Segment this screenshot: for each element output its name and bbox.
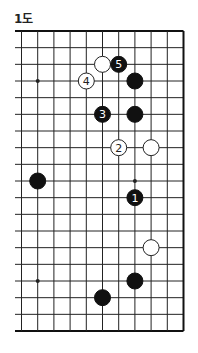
white-stone [143,240,159,256]
stone-circle [127,106,143,122]
black-stone [127,73,143,89]
black-stone: 3 [95,106,111,122]
black-stone: 5 [111,56,127,72]
stone-circle [127,73,143,89]
stone-circle [143,140,159,156]
go-board: 54321 [0,0,198,353]
black-stone: 1 [127,190,143,206]
stone-circle [30,173,46,189]
move-number-label: 2 [115,142,122,155]
stone-circle [143,240,159,256]
white-stone: 2 [111,140,127,156]
stone-circle [127,273,143,289]
black-stone [95,290,111,306]
stone-circle [95,290,111,306]
move-number-label: 3 [99,108,106,121]
white-stone: 4 [78,73,94,89]
move-number-label: 1 [131,192,138,205]
black-stone [127,273,143,289]
white-stone [95,56,111,72]
move-number-label: 4 [83,75,90,88]
move-number-label: 5 [115,58,122,71]
star-point [133,179,137,183]
white-stone [143,140,159,156]
star-point [36,279,40,283]
black-stone [30,173,46,189]
stone-circle [95,56,111,72]
star-point [36,79,40,83]
black-stone [127,106,143,122]
